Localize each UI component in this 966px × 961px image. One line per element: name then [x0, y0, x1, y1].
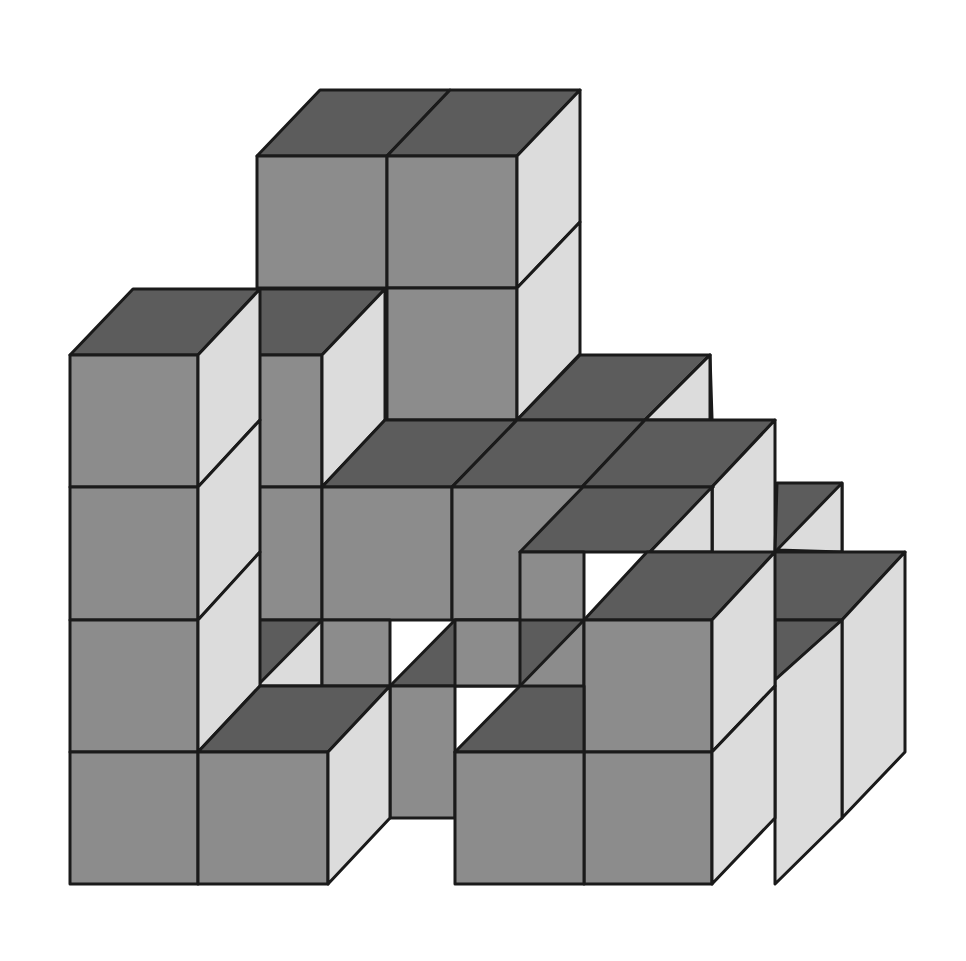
- cube-face-front: [390, 686, 455, 818]
- cube-face-front: [584, 752, 712, 884]
- cube-face-front: [70, 487, 198, 620]
- cube-face-front: [257, 156, 387, 288]
- isometric-cubes-svg: [0, 0, 966, 961]
- cube-face-front: [455, 752, 584, 884]
- cube-face-front: [322, 487, 452, 620]
- cube-face-front: [70, 620, 198, 752]
- cube-face-front: [257, 487, 322, 620]
- cube-face-front: [387, 288, 517, 420]
- cube-face-front: [198, 752, 328, 884]
- cube-face-front: [387, 156, 517, 288]
- cube-structure-figure: [0, 0, 966, 961]
- cube-face-front: [455, 620, 520, 686]
- cube-face-front: [257, 355, 322, 487]
- cube-face-front: [322, 620, 390, 686]
- cube-face-front: [70, 355, 198, 487]
- cube-face-front: [70, 752, 198, 884]
- cube-face-front: [584, 620, 712, 752]
- cube-face-top: [455, 686, 584, 752]
